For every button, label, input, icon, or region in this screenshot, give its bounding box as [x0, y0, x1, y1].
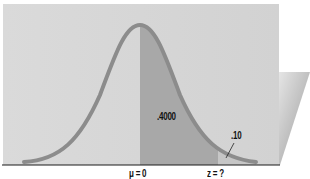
side-panel-shape: [278, 72, 310, 165]
normal-curve-diagram: [0, 0, 310, 179]
center-area-label: .4000: [157, 111, 176, 122]
tail-area-label: .10: [231, 130, 241, 141]
z-label: z = ?: [207, 168, 224, 179]
mean-label: μ = 0: [129, 168, 146, 179]
